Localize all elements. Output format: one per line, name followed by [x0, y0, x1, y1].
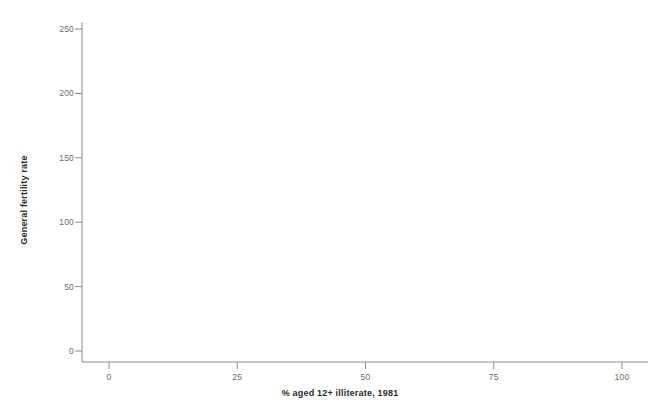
x-tick-label: 0 [107, 372, 112, 382]
y-tick-label: 100 [50, 217, 74, 227]
axis-lines [82, 22, 648, 362]
y-tick-label: 0 [50, 346, 74, 356]
plot-canvas [0, 0, 666, 414]
scatter-plot-figure: 0501001502002500255075100 % aged 12+ ill… [0, 0, 666, 414]
tick-marks [75, 29, 622, 369]
y-tick-label: 150 [50, 153, 74, 163]
y-tick-label: 50 [50, 282, 74, 292]
x-tick-label: 100 [615, 372, 630, 382]
x-axis-title: % aged 12+ illiterate, 1981 [282, 388, 399, 398]
x-tick-label: 50 [361, 372, 371, 382]
x-tick-label: 25 [232, 372, 242, 382]
y-tick-label: 250 [50, 24, 74, 34]
y-tick-label: 200 [50, 88, 74, 98]
y-axis-title: General fertility rate [19, 155, 29, 244]
x-tick-label: 75 [489, 372, 499, 382]
